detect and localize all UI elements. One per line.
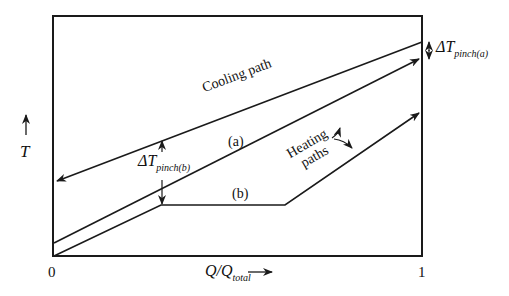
heating-path-b-label: (b) xyxy=(232,186,248,202)
diagram-canvas xyxy=(0,0,509,296)
x-origin-tick: 0 xyxy=(48,264,56,281)
heating-path-a-label: (a) xyxy=(228,134,244,150)
delta-t-pinch-b-main: ΔT xyxy=(138,152,156,169)
delta-t-pinch-a-main: ΔT xyxy=(436,38,454,55)
delta-t-pinch-b-sub: pinch(b) xyxy=(156,162,190,173)
delta-t-pinch-a-label: ΔTpinch(a) xyxy=(436,38,488,56)
delta-t-pinch-a-sub: pinch(a) xyxy=(454,48,488,59)
cooling-path-line xyxy=(57,42,422,181)
delta-t-pinch-b-label: ΔTpinch(b) xyxy=(138,152,190,170)
heating-paths-pointer-icon-2 xyxy=(334,139,352,148)
y-axis-label: T xyxy=(20,142,29,162)
x-end-tick: 1 xyxy=(418,264,426,281)
x-axis-label: Q/Qtotal xyxy=(205,262,251,280)
x-axis-label-main: Q/Q xyxy=(205,262,233,279)
heating-paths-pointer-icon xyxy=(332,128,340,138)
x-axis-label-sub: total xyxy=(233,272,251,283)
